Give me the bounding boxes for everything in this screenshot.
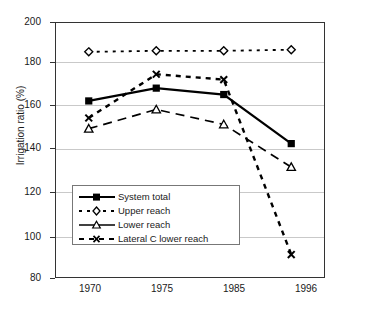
legend-marker-cross-x [78,233,116,245]
data-point [85,115,92,122]
data-point [152,105,160,113]
legend-entry-lower-reach: Lower reach [78,218,234,232]
data-point [152,47,160,55]
data-point [287,46,295,54]
legend-label-system-total: System total [116,191,170,203]
y-tick-label-140: 140 [1,143,41,153]
data-point [288,140,295,147]
y-tick-label-100: 100 [1,232,41,242]
data-point [153,85,160,92]
x-tick-label-1975: 1975 [132,283,192,294]
legend-marker-open-triangle [78,219,116,231]
legend-entry-system-total: System total [78,190,234,204]
irrigation-ratio-line-chart: Irrigation ratio (%) 200 180 160 140 120… [0,0,371,312]
legend-label-upper-reach: Upper reach [116,205,170,217]
legend-label-lateral-c-lower-reach: Lateral C lower reach [116,233,208,245]
x-tick-label-1970: 1970 [60,283,120,294]
series-line [89,109,292,167]
y-axis-title: Irrigation ratio (%) [15,56,26,196]
series-lower-reach [85,105,296,170]
series-upper-reach [85,46,296,56]
data-point [220,47,228,55]
legend-marker-open-diamond [78,205,116,217]
y-tick-label-120: 120 [1,187,41,197]
y-tick-label-180: 180 [1,57,41,67]
y-tick-mark-80 [50,278,55,279]
series-line [89,88,292,143]
data-point [220,91,227,98]
y-tick-label-200: 200 [1,17,41,27]
legend-marker-filled-square [78,191,116,203]
legend: System total Upper reach Lower reach [72,185,240,245]
y-tick-label-160: 160 [1,100,41,110]
series-line [89,50,292,52]
legend-label-lower-reach: Lower reach [116,219,170,231]
legend-entry-lateral-c-lower-reach: Lateral C lower reach [78,232,234,246]
data-point [287,163,295,171]
series-system-total [85,85,295,148]
data-point [85,97,92,104]
data-point [85,48,93,56]
y-tick-label-80: 80 [1,273,41,283]
legend-entry-upper-reach: Upper reach [78,204,234,218]
x-tick-label-1996: 1996 [276,283,336,294]
x-tick-label-1985: 1985 [204,283,264,294]
